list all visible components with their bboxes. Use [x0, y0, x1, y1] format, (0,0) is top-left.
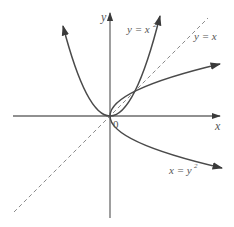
label-x-equals-y-squared: x = y 2: [168, 162, 198, 176]
svg-text:y = x: y = x: [193, 30, 217, 42]
svg-text:2: 2: [194, 162, 198, 170]
svg-text:y = x: y = x: [126, 23, 150, 35]
svg-text:2: 2: [153, 21, 157, 29]
origin-label: 0: [113, 118, 119, 130]
label-y-equals-x: y = x: [193, 30, 217, 42]
label-y-equals-x-squared: y = x 2: [126, 21, 157, 35]
diagram-canvas: y x 0 y = x 2 y = x x = y 2: [0, 0, 234, 227]
line-y-equals-x: [14, 18, 208, 212]
svg-text:x = y: x = y: [168, 164, 192, 176]
y-axis-label: y: [100, 10, 107, 24]
x-axis-label: x: [214, 119, 221, 133]
